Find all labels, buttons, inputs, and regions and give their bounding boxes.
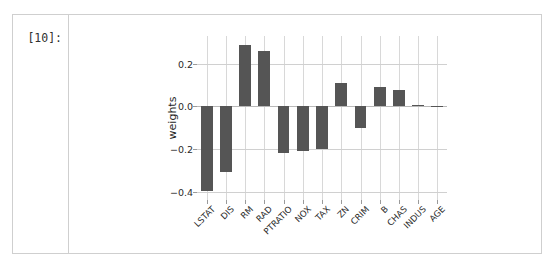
- screenshot-root: [10]: weights 0.20.0−0.2−0.4LSTATDISRMRA…: [0, 0, 556, 268]
- x-tick-label-rm: RM: [239, 204, 256, 221]
- y-tick-mark: [193, 64, 197, 65]
- y-tick-label: −0.4: [153, 186, 193, 197]
- x-tick-label-lstat: LSTAT: [192, 204, 217, 229]
- bar-b: [374, 87, 386, 106]
- y-tick-mark: [193, 106, 197, 107]
- gridline-horizontal: [197, 192, 447, 193]
- y-tick-mark: [193, 192, 197, 193]
- x-tick-mark: [284, 200, 285, 204]
- x-tick-mark: [207, 200, 208, 204]
- matplotlib-figure: weights 0.20.0−0.2−0.4LSTATDISRMRADPTRAT…: [69, 15, 541, 253]
- cell-execution-count: [10]:: [27, 31, 62, 45]
- x-tick-mark: [322, 200, 323, 204]
- x-tick-mark: [399, 200, 400, 204]
- bar-ptratio: [278, 106, 290, 153]
- x-tick-label-tax: TAX: [313, 204, 332, 223]
- notebook-cell: [10]: weights 0.20.0−0.2−0.4LSTATDISRMRA…: [12, 14, 542, 254]
- x-tick-mark: [226, 200, 227, 204]
- x-tick-mark: [245, 200, 246, 204]
- bar-chas: [393, 90, 405, 106]
- x-tick-mark: [361, 200, 362, 204]
- x-tick-mark: [341, 200, 342, 204]
- gridline-horizontal: [197, 64, 447, 65]
- x-tick-label-nox: NOX: [293, 204, 313, 224]
- y-tick-label: −0.2: [153, 143, 193, 154]
- bar-dis: [220, 106, 232, 172]
- gridline-vertical: [418, 36, 419, 200]
- gridline-horizontal: [197, 149, 447, 150]
- bar-rm: [239, 45, 251, 107]
- x-tick-mark: [418, 200, 419, 204]
- x-tick-label-b: B: [379, 204, 390, 215]
- bar-nox: [297, 106, 309, 151]
- gridline-vertical: [380, 36, 381, 200]
- y-tick-mark: [193, 149, 197, 150]
- bar-indus: [412, 105, 424, 106]
- x-tick-mark: [303, 200, 304, 204]
- plot-area: [197, 36, 447, 200]
- bar-crim: [355, 106, 367, 127]
- x-tick-mark: [380, 200, 381, 204]
- x-tick-mark: [437, 200, 438, 204]
- bar-lstat: [201, 106, 213, 191]
- y-tick-label: 0.0: [153, 101, 193, 112]
- gridline-vertical: [437, 36, 438, 200]
- gridline-vertical: [399, 36, 400, 200]
- cell-output-area: weights 0.20.0−0.2−0.4LSTATDISRMRADPTRAT…: [69, 15, 541, 253]
- x-tick-label-age: AGE: [428, 204, 448, 224]
- gridline-vertical: [341, 36, 342, 200]
- bar-tax: [316, 106, 328, 149]
- bar-rad: [258, 51, 270, 106]
- bar-zn: [335, 83, 347, 106]
- x-tick-mark: [264, 200, 265, 204]
- y-tick-label: 0.2: [153, 58, 193, 69]
- cell-prompt-column: [10]:: [13, 15, 69, 253]
- chart-axes: weights 0.20.0−0.2−0.4LSTATDISRMRADPTRAT…: [197, 36, 447, 200]
- bar-age: [431, 106, 443, 107]
- x-tick-label-dis: DIS: [218, 204, 235, 221]
- x-tick-label-crim: CRIM: [348, 204, 371, 227]
